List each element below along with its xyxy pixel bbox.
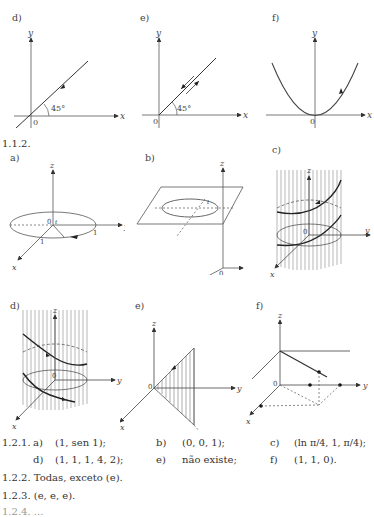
figure-label: b) [145,152,155,163]
figure-1-1-2-a: a) z y x 0 1 1 t [0,150,125,275]
answer-1-2-2: 1.2.2. Todas, exceto (e). [2,472,123,483]
figure-label: f) [272,12,279,23]
svg-text:0: 0 [219,270,223,275]
figure-label: e) [135,300,144,311]
answer-item-value: (1, 1, 1, 4, 2); [55,454,123,465]
svg-text:z: z [49,161,55,170]
svg-text:z: z [277,311,283,320]
svg-text:t: t [55,218,58,225]
answer-item-value: (1, 1, 0). [294,454,337,465]
svg-text:0: 0 [47,218,51,226]
answer-1-2-4-partial: 1.2.4. ... [2,506,43,517]
svg-text:x: x [12,263,17,272]
svg-text:x: x [270,270,275,279]
section-heading-1-1-2: 1.1.2. [2,138,31,149]
figure-1-1-2-e: e) z y x 0 [120,300,245,430]
unit-circle-3d: z y x 0 1 1 t [0,150,125,275]
svg-text:0: 0 [153,117,158,126]
svg-text:y: y [155,28,162,38]
answer-item-value: (1, sen 1); [55,437,106,448]
svg-text:z: z [151,319,157,328]
answer-item-value: (ln π/4, 1, π/4); [294,437,366,448]
figure-1-1-1-d: d) 45° x y 0 [0,0,125,128]
figure-label: a) [10,152,19,163]
svg-text:1: 1 [40,238,44,246]
answer-number-1-2-1: 1.2.1. [2,437,31,448]
figure-label: d) [10,300,20,311]
svg-text:y: y [364,226,370,235]
parabola-graph: x y 0 [248,0,374,128]
svg-text:z: z [52,306,58,315]
figure-label: c) [272,144,281,155]
svg-text:1: 1 [93,229,97,237]
answer-item-value: não existe; [182,454,237,465]
helix-on-cylinder-3d: z y x 0 [245,140,374,280]
answer-1-2-3: 1.2.3. (e, e, e). [2,490,75,501]
svg-text:x: x [367,110,372,120]
figure-label: f) [256,300,263,311]
circle-on-plane-3d: z 0 t [125,150,245,275]
answer-item-label: e) [156,454,166,465]
svg-text:z: z [219,159,225,168]
svg-text:45°: 45° [51,104,65,113]
svg-text:x: x [120,423,125,430]
figure-1-1-2-c: c) z y x 0 [245,140,374,280]
svg-text:y: y [311,28,318,38]
answer-item-label: b) [156,437,166,448]
svg-text:0: 0 [148,383,152,391]
answer-item-value: (0, 0, 1); [182,437,225,448]
figure-1-1-2-b: b) z 0 t [125,150,245,275]
answer-item-label: a) [33,437,43,448]
answer-item-label: c) [270,437,280,448]
svg-text:0: 0 [310,117,315,126]
answer-item-label: f) [270,454,278,465]
svg-text:0: 0 [52,372,56,380]
svg-text:x: x [246,417,251,426]
figure-label: d) [12,12,22,23]
svg-text:0: 0 [273,380,277,388]
figure-1-1-1-f: f) x y 0 [248,0,374,128]
svg-text:45°: 45° [177,104,191,113]
svg-text:0: 0 [303,228,307,236]
curve-on-cylinder-3d: z y x 0 [0,300,125,430]
segments-with-points-3d: z y x 0 [240,300,374,430]
figure-label: e) [140,12,149,23]
svg-text:y: y [27,28,34,38]
svg-text:0: 0 [33,118,38,127]
svg-text:x: x [120,111,125,121]
answer-item-label: d) [33,454,43,465]
svg-text:x: x [12,422,17,430]
svg-text:y: y [362,381,368,390]
figure-1-1-2-d: d) z y x 0 [0,300,125,430]
figure-1-1-1-e: e) 45° x y 0 [128,0,248,128]
svg-text:z: z [306,166,312,175]
shaded-triangle-3d: z y x 0 [120,300,245,430]
figure-1-1-2-f: f) z y x 0 [240,300,374,430]
